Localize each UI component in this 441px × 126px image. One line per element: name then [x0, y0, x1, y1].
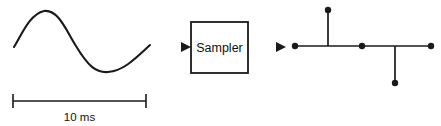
output-arrow — [248, 42, 286, 52]
sample-5-dot — [428, 43, 434, 49]
analog-sine-wave — [14, 11, 150, 72]
sampler-label: Sampler — [196, 41, 243, 55]
scale-bar-label: 10 ms — [64, 111, 96, 123]
output-arrow-head — [276, 42, 286, 52]
sample-1-dot — [292, 43, 298, 49]
sampled-impulse-train — [292, 7, 434, 86]
sampler-figure: 10 ms Sampler — [0, 0, 441, 126]
sample-4-dot — [392, 80, 398, 86]
sample-3-dot — [359, 43, 365, 49]
figure-canvas: 10 ms Sampler — [0, 0, 441, 126]
input-arrow-head — [181, 42, 191, 52]
sample-2-dot — [325, 7, 331, 13]
sampler-block: Sampler — [191, 22, 248, 73]
scale-bar: 10 ms — [13, 94, 146, 123]
input-arrow — [157, 42, 191, 52]
